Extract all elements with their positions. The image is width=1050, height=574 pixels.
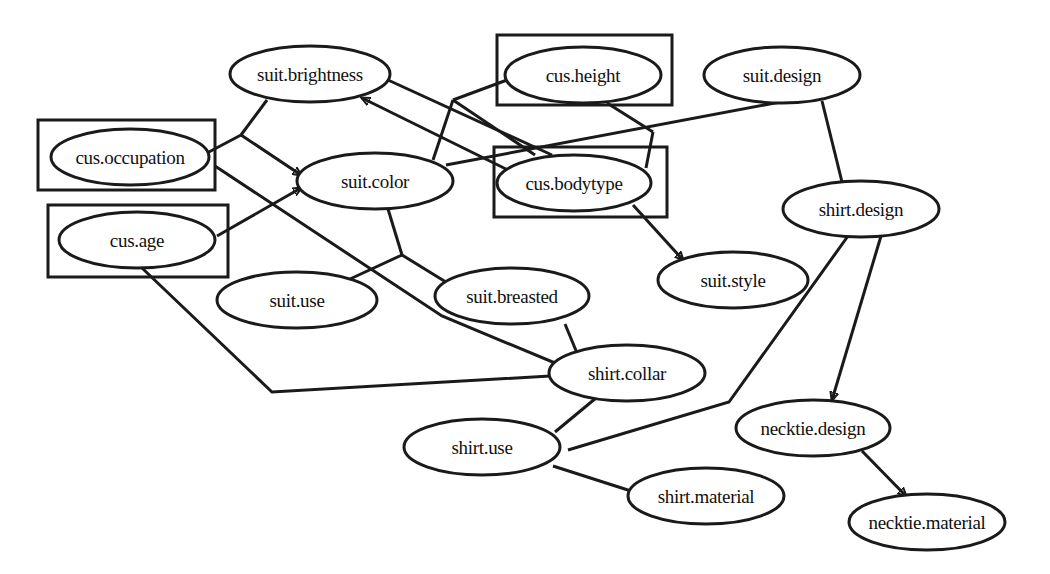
node-label: cus.bodytype <box>525 173 622 194</box>
node-label: cus.height <box>546 65 622 86</box>
node-shirt-collar: shirt.collar <box>549 345 705 401</box>
node-suit-design: suit.design <box>704 47 860 103</box>
node-label: suit.color <box>341 171 410 192</box>
node-cus-age: cus.age <box>59 212 215 268</box>
node-cus-height: cus.height <box>505 47 661 103</box>
edge-breasted-to-shirt-collar <box>565 324 577 353</box>
edge-necktie-design-to-material <box>862 451 906 496</box>
node-label: suit.use <box>269 290 324 311</box>
node-label: shirt.use <box>451 437 512 458</box>
node-necktie-material: necktie.material <box>849 494 1005 550</box>
edge-height-junction <box>453 80 507 100</box>
edge-junction-c-to-bodytype <box>646 132 653 168</box>
edge-brightness-occupation-junction <box>241 100 267 135</box>
node-label: suit.breasted <box>466 286 558 307</box>
edge-suit-design-to-shirt-design <box>822 101 842 182</box>
edge-shirt-use-to-material <box>553 466 631 491</box>
node-label: shirt.collar <box>588 363 667 384</box>
node-label: suit.style <box>700 270 765 291</box>
node-shirt-material: shirt.material <box>628 468 784 524</box>
node-label: suit.brightness <box>257 64 363 85</box>
edge-bodytype-to-suit-style <box>633 205 683 260</box>
node-label: cus.occupation <box>75 147 185 168</box>
node-label: shirt.design <box>819 199 904 220</box>
node-suit-style: suit.style <box>658 252 808 308</box>
node-suit-color: suit.color <box>297 153 453 209</box>
diagram-canvas: suit.brightnesscus.heightsuit.designcus.… <box>0 0 1050 574</box>
edge-occupation-junction <box>207 135 241 153</box>
edge-shirt-design-to-necktie-design <box>832 236 881 400</box>
edge-collar-to-shirt-use <box>555 398 596 432</box>
edge-height-to-bodytype-junction <box>607 103 653 132</box>
node-suit-brightness: suit.brightness <box>230 46 390 102</box>
node-shirt-use: shirt.use <box>404 419 560 475</box>
node-cus-occupation: cus.occupation <box>51 129 209 185</box>
node-label: cus.age <box>110 230 164 251</box>
node-suit-use: suit.use <box>217 272 377 328</box>
node-label: shirt.material <box>658 486 755 507</box>
node-necktie-design: necktie.design <box>736 400 890 456</box>
node-cus-bodytype: cus.bodytype <box>497 155 651 211</box>
node-shirt-design: shirt.design <box>783 181 939 237</box>
node-label: necktie.material <box>868 512 985 533</box>
node-suit-breasted: suit.breasted <box>435 268 589 324</box>
node-label: necktie.design <box>760 418 866 439</box>
edge-color-to-suit-design <box>446 102 780 165</box>
edge-color-to-junction-d <box>388 209 402 255</box>
edge-junction-a-to-suit-color <box>241 135 301 175</box>
edge-color-height-junction <box>433 100 453 160</box>
node-label: suit.design <box>743 65 822 86</box>
